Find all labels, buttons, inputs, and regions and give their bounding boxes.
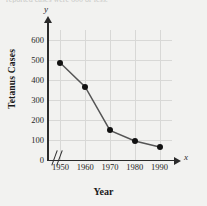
data-point-marker	[132, 138, 138, 144]
chart-screenshot: reported cases were 600 or less. y x 010…	[0, 0, 207, 206]
y-axis-title: Tetanus Cases	[7, 43, 17, 115]
x-axis-variable-letter: x	[184, 152, 188, 162]
x-tick-label: 1990	[145, 162, 175, 172]
y-axis-variable-letter: y	[44, 4, 48, 14]
y-tick-label: 0	[4, 156, 48, 165]
x-axis-title: Year	[0, 186, 207, 197]
tetanus-cases-line-chart: y x 0100200300400500600 1950196019701980…	[0, 0, 207, 206]
data-series-tetanus-cases	[48, 30, 172, 160]
series-line	[60, 63, 159, 147]
y-axis-arrow-icon	[44, 16, 52, 23]
y-tick-label: 100	[4, 136, 48, 145]
y-tick-label: 200	[4, 116, 48, 125]
x-axis-arrow-icon	[174, 157, 181, 165]
data-point-marker	[157, 144, 163, 150]
